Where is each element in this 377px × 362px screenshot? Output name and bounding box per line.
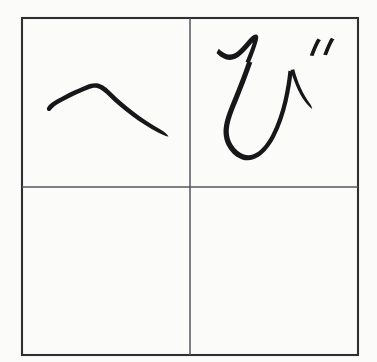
handwriting-worksheet: へ び Hiragana handwriting practice grid bbox=[0, 0, 377, 362]
grid-cell-top-right[interactable] bbox=[191, 19, 357, 186]
grid-cell-top-left[interactable] bbox=[23, 19, 189, 186]
grid-cell-bottom-left[interactable] bbox=[23, 188, 189, 354]
grid-cell-bottom-right[interactable] bbox=[191, 188, 357, 354]
